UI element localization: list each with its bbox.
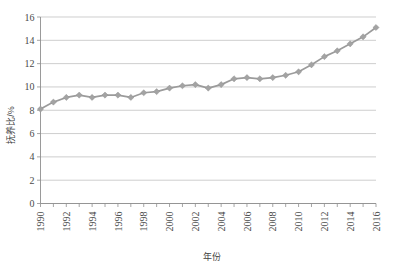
x-tick-label: 1994 — [87, 212, 98, 232]
x-tick-label: 2000 — [164, 212, 175, 232]
y-tick-label: 0 — [30, 198, 35, 209]
x-tick-label: 2014 — [345, 212, 356, 232]
y-tick-label: 8 — [30, 105, 35, 116]
x-tick-label: 2008 — [267, 212, 278, 232]
x-tick-label: 1998 — [138, 212, 149, 232]
y-tick-label: 14 — [25, 35, 35, 46]
chart-container: 0246810121416 19901992199419961998200020… — [0, 0, 410, 268]
x-axis-title: 年份 — [203, 251, 221, 262]
x-tick-label: 2012 — [319, 212, 330, 232]
line-chart: 0246810121416 19901992199419961998200020… — [0, 0, 410, 268]
y-tick-label: 2 — [30, 175, 35, 186]
x-tick-label: 1992 — [61, 212, 72, 232]
x-tick-label: 2010 — [293, 212, 304, 232]
y-tick-label: 12 — [25, 58, 35, 69]
x-tick-label: 2002 — [190, 212, 201, 232]
y-tick-label: 4 — [30, 151, 35, 162]
x-tick-label: 2016 — [371, 212, 382, 232]
y-tick-label: 10 — [25, 81, 35, 92]
y-tick-label: 16 — [25, 12, 35, 23]
x-tick-label: 2004 — [216, 212, 227, 232]
y-axis-title: 抚养比/% — [5, 106, 16, 144]
y-tick-label: 6 — [30, 128, 35, 139]
x-tick-label: 1996 — [113, 212, 124, 232]
x-tick-label: 2006 — [242, 212, 253, 232]
x-tick-label: 1990 — [35, 212, 46, 232]
